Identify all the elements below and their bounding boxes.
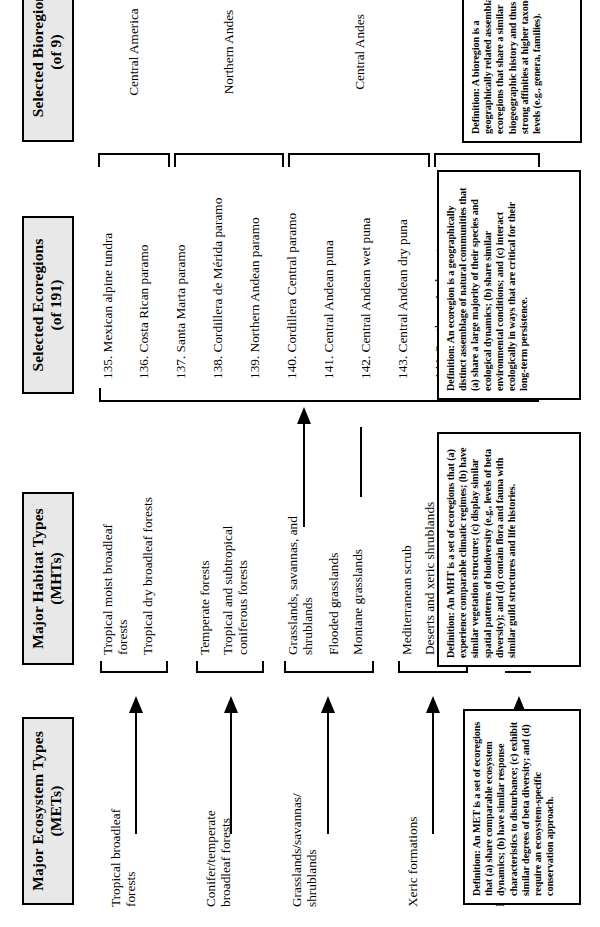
column-header-mhts-sub: (MHTs) (47, 498, 65, 659)
definition-box-bioregion: Definition: A bioregion is a geographica… (462, 0, 582, 143)
arrow-mht-to-ecoregions (303, 409, 305, 527)
arrow-met-to-mht-4 (432, 698, 434, 834)
mht-label-montane-grasslands: Montane grasslands (350, 425, 365, 655)
column-header-mets-sub: (METs) (47, 723, 65, 899)
connector-montane-grasslands (360, 427, 362, 497)
mht-label-temperate-forests: Temperate forests (197, 425, 212, 655)
mht-label-tropical-subtropical-coniferous-forests: Tropical and subtropical coniferous fore… (220, 425, 251, 655)
met-label-xeric-formations: Xeric formations (405, 707, 420, 907)
mht-label-tropical-moist-broadleaf-forests: Tropical moist broadleaf forests (100, 425, 131, 655)
bioregion-label-northern-andes: Northern Andes (221, 0, 236, 137)
mht-label-flooded-grasslands: Flooded grasslands (326, 425, 341, 655)
mht-label-grasslands-savannas-shrublands: Grasslands, savannas, and shrublands (285, 420, 316, 655)
column-header-ecoregions-title: Selected Ecoregions (29, 239, 46, 372)
column-header-mets-title: Major Ecosystem Types (29, 731, 46, 891)
mht-label-deserts-xeric-shrublands: Deserts and xeric shrublands (422, 415, 437, 655)
arrow-met-to-mht-3 (327, 698, 329, 834)
bracket-mht-group-3 (284, 661, 374, 673)
column-header-bioregions-title: Selected Bioregions (29, 0, 46, 117)
bracket-bioregion-central-america (98, 153, 170, 167)
column-header-bioregions: Selected Bioregions (of 9) (22, 0, 74, 142)
bracket-bioregion-northern-andes (174, 153, 284, 167)
mht-label-mediterranean-scrub: Mediterranean scrub (399, 425, 414, 655)
bracket-mht-group-2 (196, 661, 264, 673)
bracket-mht-group-5-tick (505, 671, 531, 673)
bioregion-label-central-america: Central America (126, 0, 141, 137)
definition-box-mht: Definition: An MHT is a set of ecoregion… (437, 432, 581, 667)
bracket-bioregion-central-andes (288, 153, 430, 167)
mht-label-tropical-dry-broadleaf-forests: Tropical dry broadleaf forests (140, 415, 155, 655)
column-header-mhts-title: Major Habitat Types (29, 508, 46, 649)
met-label-grasslands-savannas-shrublands: Grasslands/savannas/ shrublands (289, 692, 320, 907)
column-header-mhts: Major Habitat Types (MHTs) (22, 492, 74, 665)
column-header-mets: Major Ecosystem Types (METs) (22, 717, 74, 905)
definition-box-ecoregion: Definition: An ecoregion is a geographic… (437, 170, 581, 400)
ecoregion-label-135: 135. Mexican alpine tundra (100, 134, 115, 379)
rotated-diagram-wrapper: Major Ecosystem Types (METs) Major Habit… (0, 0, 600, 927)
bioregion-label-central-andes: Central Andes (352, 0, 367, 137)
diagram-canvas: Major Ecosystem Types (METs) Major Habit… (0, 0, 600, 927)
column-header-ecoregions-sub: (of 191) (47, 222, 65, 388)
definition-box-met: Definition: An MET is a set of ecoregion… (463, 709, 581, 905)
column-header-bioregions-sub: (of 9) (47, 0, 65, 136)
bracket-mht-group-1 (100, 661, 168, 673)
column-header-ecoregions: Selected Ecoregions (of 191) (22, 216, 74, 394)
arrow-met-to-mht-2 (230, 698, 232, 834)
ecoregion-label-137: 137. Santa Marta paramo (173, 134, 188, 379)
ecoregion-label-136: 136. Costa Rican paramo (136, 134, 151, 379)
ecoregion-label-141: 141. Central Andean puna (321, 134, 336, 379)
arrow-met-to-mht-1 (135, 698, 137, 834)
bracket-bioregion-southern-south-america (434, 153, 540, 167)
